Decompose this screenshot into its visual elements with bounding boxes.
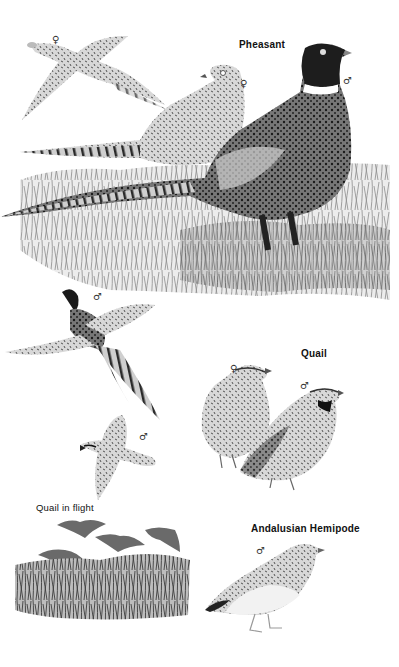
female-symbol-icon: ♀ [240, 78, 247, 89]
pheasant-female-flight [22, 36, 168, 120]
quail-male-flight [80, 415, 156, 500]
label-quail-in-flight: Quail in flight [36, 502, 94, 513]
male-symbol-icon: ♂ [343, 75, 352, 86]
female-symbol-icon: ♀ [52, 34, 59, 45]
hemipode-male [205, 544, 325, 632]
male-symbol-icon: ♂ [139, 431, 148, 442]
quail-grass [15, 554, 190, 619]
male-symbol-icon: ♂ [256, 545, 265, 556]
label-pheasant: Pheasant [239, 39, 285, 50]
male-symbol-icon: ♂ [300, 380, 309, 391]
male-symbol-icon: ♂ [93, 291, 102, 302]
plate-illustration [0, 0, 399, 667]
label-quail: Quail [301, 348, 327, 359]
label-andalusian-hemipode: Andalusian Hemipode [251, 523, 360, 534]
female-symbol-icon: ♀ [230, 363, 237, 374]
pheasant-male-flight [5, 289, 160, 420]
